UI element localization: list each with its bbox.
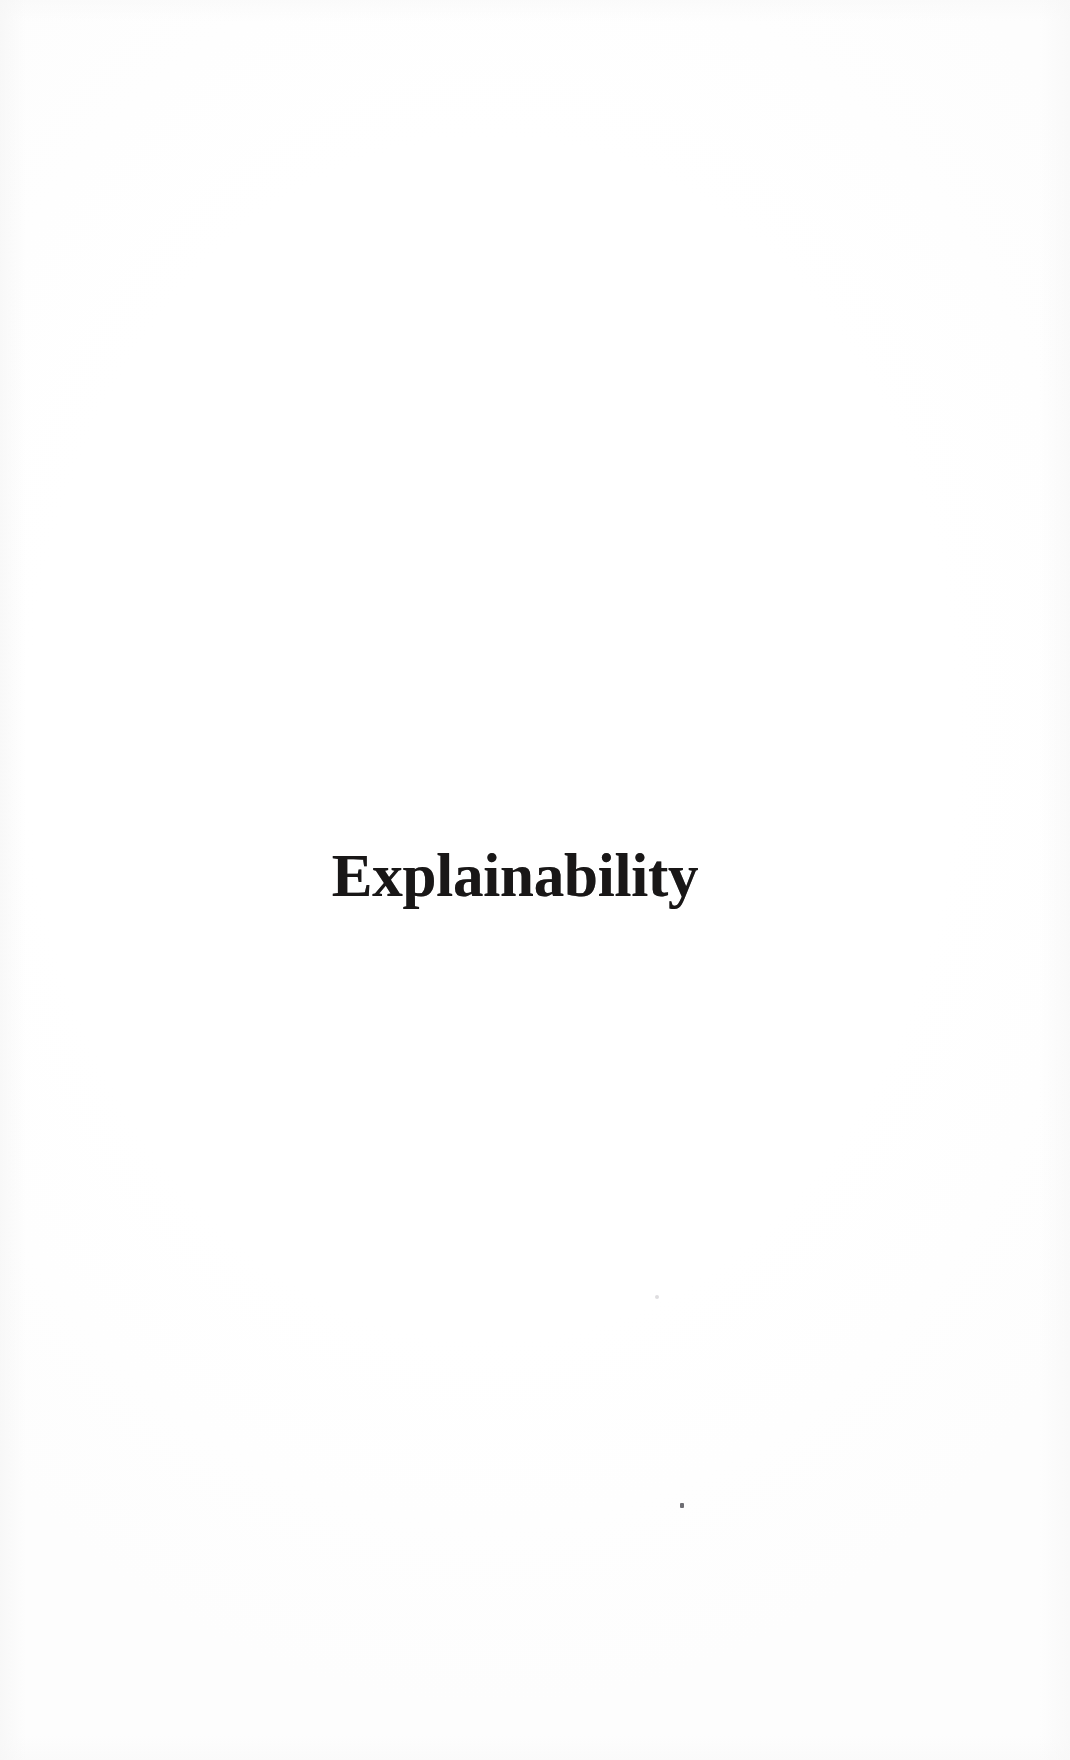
scanned-book-page: Explainability — [0, 0, 1070, 1760]
scan-speck-faint — [655, 1295, 659, 1299]
part-divider-block: Explainability — [0, 845, 1030, 906]
page-title: Explainability — [332, 845, 699, 906]
scan-speck-dark — [680, 1503, 684, 1508]
